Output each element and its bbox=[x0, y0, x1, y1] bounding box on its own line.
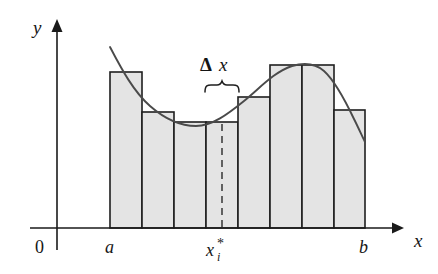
riemann-bar bbox=[174, 122, 206, 228]
tick-label-b: b bbox=[359, 237, 368, 257]
bars-group bbox=[110, 65, 365, 228]
delta-x-variable: x bbox=[218, 54, 228, 75]
riemann-bar bbox=[238, 97, 270, 228]
x-axis-label: x bbox=[413, 230, 423, 251]
riemann-sum-figure: y x 0 a b Δ x x i * bbox=[0, 0, 438, 274]
sample-point-superscript: * bbox=[217, 236, 224, 251]
x-axis-arrowhead bbox=[392, 223, 404, 234]
riemann-bar bbox=[270, 65, 302, 228]
y-axis-label: y bbox=[31, 17, 42, 38]
delta-x-brace bbox=[205, 81, 239, 92]
riemann-bar bbox=[334, 110, 365, 228]
delta-x-symbol: Δ bbox=[200, 54, 212, 75]
y-axis-arrowhead bbox=[52, 19, 63, 32]
origin-label: 0 bbox=[35, 237, 44, 257]
sample-point-subscript: i bbox=[217, 250, 220, 264]
riemann-bar bbox=[302, 65, 334, 228]
sample-point-label: x bbox=[205, 240, 214, 260]
tick-label-a: a bbox=[105, 237, 114, 257]
riemann-sum-diagram: y x 0 a b Δ x x i * bbox=[0, 0, 438, 274]
riemann-bar bbox=[110, 72, 142, 228]
riemann-bar bbox=[142, 112, 174, 228]
